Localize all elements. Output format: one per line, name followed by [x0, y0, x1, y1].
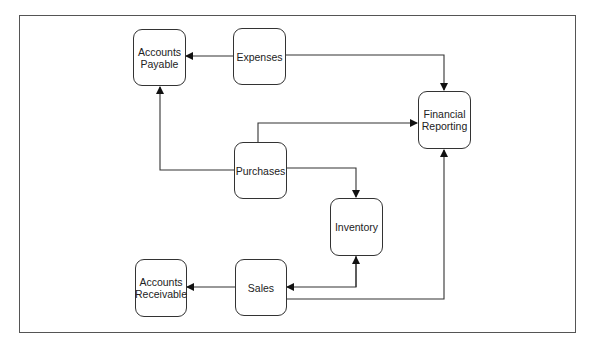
edge-purchases-to-inventory — [286, 168, 356, 197]
node-label-line: Financial — [422, 108, 468, 120]
edge-expenses-to-financial-reporting — [285, 55, 444, 90]
edge-purchases-to-financial-reporting — [258, 123, 417, 142]
node-inventory[interactable]: Inventory — [330, 198, 383, 256]
node-label: Purchases — [236, 165, 286, 177]
node-label-line: Reporting — [422, 120, 468, 132]
connector-layer — [0, 0, 594, 346]
node-sales[interactable]: Sales — [235, 259, 287, 316]
edge-inventory-to-sales — [287, 256, 356, 287]
node-financial-reporting[interactable]: Financial Reporting — [418, 91, 471, 149]
node-accounts-receivable[interactable]: Accounts Receivable — [135, 259, 187, 317]
node-accounts-payable[interactable]: Accounts Payable — [133, 29, 186, 86]
node-label: Inventory — [335, 221, 378, 233]
node-label: Sales — [248, 282, 274, 294]
node-label: Expenses — [236, 51, 282, 63]
node-label-line: Accounts — [135, 276, 187, 288]
node-expenses[interactable]: Expenses — [233, 28, 286, 85]
node-label-line: Payable — [138, 58, 181, 70]
edge-purchases-to-accounts-payable — [160, 87, 234, 170]
node-label-line: Accounts — [138, 46, 181, 58]
node-purchases[interactable]: Purchases — [234, 142, 287, 199]
node-label-line: Receivable — [135, 288, 187, 300]
